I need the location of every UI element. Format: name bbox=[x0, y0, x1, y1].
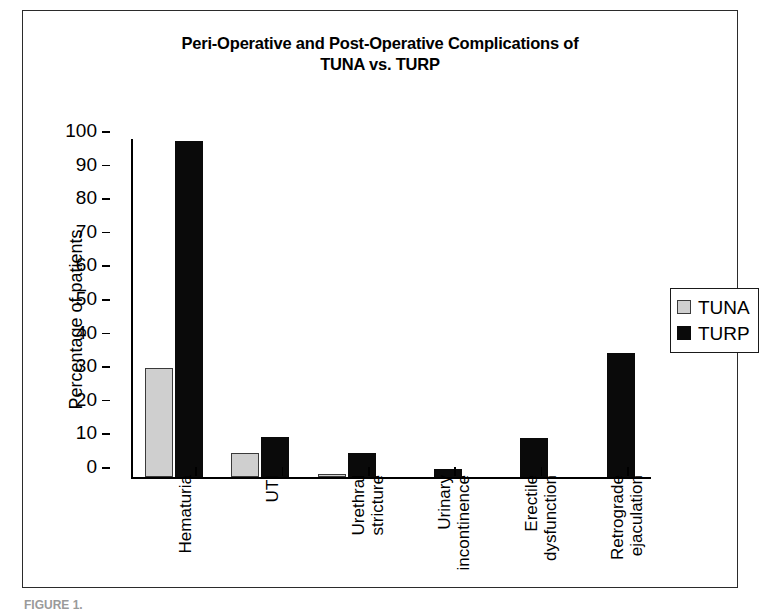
y-axis-tick-label: 80 bbox=[51, 188, 97, 207]
y-axis-tick bbox=[102, 467, 110, 469]
legend-label-turp: TURP bbox=[698, 324, 750, 343]
figure-frame: Peri-Operative and Post-Operative Compli… bbox=[22, 10, 738, 588]
y-axis-tick-label: 30 bbox=[51, 356, 97, 375]
bar-group bbox=[400, 141, 476, 477]
x-axis-category-label-5: Retrograde ejaculation bbox=[608, 475, 646, 612]
y-axis-tick bbox=[102, 198, 110, 200]
bar-turp-5 bbox=[607, 353, 635, 477]
bar-tuna-0 bbox=[145, 368, 173, 477]
bar-turp-0 bbox=[175, 141, 203, 477]
bar-tuna-1 bbox=[231, 453, 259, 477]
y-axis-tick bbox=[102, 366, 110, 368]
bar-tuna-2 bbox=[318, 474, 346, 477]
y-axis-tick bbox=[102, 299, 110, 301]
y-axis-tick-label: 0 bbox=[51, 457, 97, 476]
y-axis-tick bbox=[102, 232, 110, 234]
bar-group bbox=[227, 141, 303, 477]
bar-group bbox=[573, 141, 649, 477]
y-axis-tick-label: 20 bbox=[51, 390, 97, 409]
x-axis-category-label-0: Hematuria bbox=[176, 475, 195, 612]
legend-swatch-tuna-icon bbox=[677, 300, 691, 314]
x-axis-tick bbox=[195, 467, 197, 476]
bar-group bbox=[486, 141, 562, 477]
plot-area bbox=[131, 141, 649, 477]
chart-title-line-1: Peri-Operative and Post-Operative Compli… bbox=[23, 33, 737, 54]
y-axis-tick-label: 60 bbox=[51, 255, 97, 274]
y-axis-tick bbox=[102, 333, 110, 335]
legend-swatch-turp-icon bbox=[677, 326, 691, 340]
figure-caption: FIGURE 1. bbox=[24, 598, 83, 612]
bar-turp-4 bbox=[520, 438, 548, 477]
y-axis-tick bbox=[102, 265, 110, 267]
chart-title: Peri-Operative and Post-Operative Compli… bbox=[23, 33, 737, 75]
y-axis-tick-label: 10 bbox=[51, 423, 97, 442]
y-axis-tick bbox=[102, 400, 110, 402]
x-axis-category-label-1: UTI bbox=[263, 475, 282, 612]
y-axis-tick-label: 50 bbox=[51, 289, 97, 308]
y-axis-tick-label: 70 bbox=[51, 222, 97, 241]
legend-item-turp: TURP bbox=[677, 320, 750, 346]
x-axis-line bbox=[131, 477, 651, 479]
y-axis-tick bbox=[102, 131, 110, 133]
chart-legend: TUNA TURP bbox=[670, 288, 759, 353]
x-axis-category-label-4: Erectile dysfunction bbox=[522, 475, 560, 612]
bar-turp-1 bbox=[261, 437, 289, 477]
bar-group bbox=[314, 141, 390, 477]
x-axis-category-label-3: Urinary incontinence bbox=[435, 475, 473, 612]
legend-item-tuna: TUNA bbox=[677, 294, 750, 320]
y-axis-tick-label: 90 bbox=[51, 155, 97, 174]
bar-group bbox=[141, 141, 217, 477]
bar-turp-2 bbox=[348, 453, 376, 477]
chart-title-line-2: TUNA vs. TURP bbox=[23, 54, 737, 75]
y-axis-tick-label: 40 bbox=[51, 323, 97, 342]
legend-label-tuna: TUNA bbox=[698, 298, 750, 317]
y-axis-tick bbox=[102, 433, 110, 435]
y-axis-tick-label: 100 bbox=[51, 121, 97, 140]
y-axis-tick bbox=[102, 165, 110, 167]
y-axis-tick-labels: 1009080706050403020100 bbox=[45, 11, 97, 612]
x-axis-category-label-2: Urethral stricture bbox=[349, 475, 387, 612]
